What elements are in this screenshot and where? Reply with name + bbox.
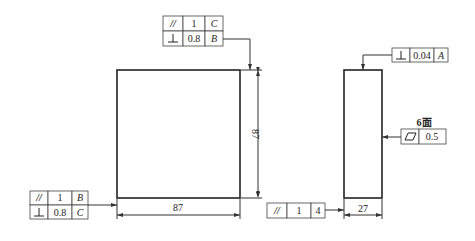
svg-text:0.04: 0.04 — [413, 50, 431, 61]
svg-text:B: B — [77, 192, 83, 203]
svg-text:0.8: 0.8 — [54, 207, 67, 218]
svg-text:4: 4 — [316, 205, 321, 216]
main-width-dimension: 87 — [117, 199, 240, 219]
svg-text:C: C — [77, 207, 84, 218]
svg-text:0.5: 0.5 — [426, 131, 439, 142]
flatness-note: 6面 — [417, 117, 432, 128]
main-top-feature-control-frame: // 1 C 0.8 B — [163, 16, 252, 70]
svg-text:1: 1 — [297, 205, 302, 216]
technical-drawing: 87 87 // 1 C 0.8 B // — [0, 0, 475, 241]
main-height-dimension: 87 — [241, 70, 262, 198]
svg-text:0.8: 0.8 — [188, 33, 201, 44]
main-width-text: 87 — [173, 202, 183, 213]
svg-text:1: 1 — [192, 18, 197, 29]
svg-text:A: A — [437, 50, 445, 61]
main-part-outline — [117, 70, 240, 198]
main-left-feature-control-frame: // 1 B 0.8 C — [30, 191, 117, 219]
svg-text:C: C — [211, 18, 218, 29]
side-top-feature-control-frame: 0.04 A — [361, 48, 448, 70]
side-bottom-feature-control-frame: // 1 4 — [267, 203, 344, 218]
main-height-text: 87 — [250, 129, 261, 139]
side-flatness-feature-control-frame: 6面 0.5 — [382, 117, 446, 144]
svg-text:1: 1 — [58, 192, 63, 203]
side-part-outline — [344, 70, 382, 198]
side-width-dimension: 27 — [344, 199, 382, 219]
side-width-text: 27 — [358, 203, 368, 214]
svg-text:B: B — [211, 33, 217, 44]
